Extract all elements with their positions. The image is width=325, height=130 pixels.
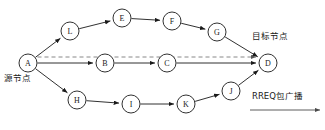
edge-f-to-g xyxy=(181,23,205,29)
node-label-h: H xyxy=(74,96,80,105)
node-j[interactable]: J xyxy=(222,82,240,100)
edge-a-to-l xyxy=(36,38,61,57)
legend-label: RREQ包广播 xyxy=(252,92,303,101)
diagram-canvas: ALEFGBCDHIKJ xyxy=(0,0,325,130)
nodes-layer: ALEFGBCDHIKJ xyxy=(19,9,277,113)
edge-l-to-e xyxy=(79,21,110,29)
node-label-f: F xyxy=(170,17,175,26)
node-k[interactable]: K xyxy=(177,95,195,113)
rreq-broadcast-diagram: ALEFGBCDHIKJ 源节点 目标节点 RREQ包广播 xyxy=(0,0,325,130)
edge-a-to-h xyxy=(36,69,68,93)
edge-h-to-i xyxy=(86,101,119,103)
node-label-c: C xyxy=(164,59,169,68)
node-label-b: B xyxy=(102,59,107,68)
source-node-label: 源节点 xyxy=(4,74,31,83)
node-label-l: L xyxy=(68,27,73,36)
node-d[interactable]: D xyxy=(259,54,277,72)
node-label-k: K xyxy=(183,100,189,109)
target-node-label: 目标节点 xyxy=(252,32,288,41)
node-e[interactable]: E xyxy=(113,9,131,27)
node-h[interactable]: H xyxy=(68,91,86,109)
node-label-i: I xyxy=(130,100,133,109)
node-c[interactable]: C xyxy=(158,54,176,72)
node-label-a: A xyxy=(25,59,31,68)
node-a[interactable]: A xyxy=(19,54,37,72)
edge-e-to-f xyxy=(131,19,160,21)
node-label-e: E xyxy=(120,14,125,23)
node-i[interactable]: I xyxy=(122,95,140,113)
node-l[interactable]: L xyxy=(61,22,79,40)
node-label-g: G xyxy=(214,28,220,37)
node-b[interactable]: B xyxy=(96,54,114,72)
node-f[interactable]: F xyxy=(163,12,181,30)
edge-j-to-d xyxy=(239,70,259,85)
node-label-j: J xyxy=(229,87,232,96)
edge-k-to-j xyxy=(195,94,219,101)
node-g[interactable]: G xyxy=(208,23,226,41)
node-label-d: D xyxy=(265,59,271,68)
